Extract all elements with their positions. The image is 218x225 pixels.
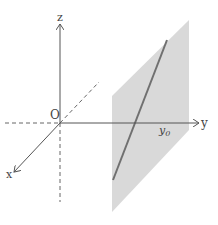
x-axis-negative [60, 82, 99, 123]
z-axis-label: z [57, 11, 63, 24]
x-axis [14, 123, 60, 172]
y-axis-label: y [200, 116, 208, 130]
x-axis-label: x [6, 168, 13, 181]
origin-label: O [50, 108, 60, 122]
plane-y0 [112, 20, 189, 212]
coordinate-diagram: z y x O y0 [0, 0, 218, 225]
